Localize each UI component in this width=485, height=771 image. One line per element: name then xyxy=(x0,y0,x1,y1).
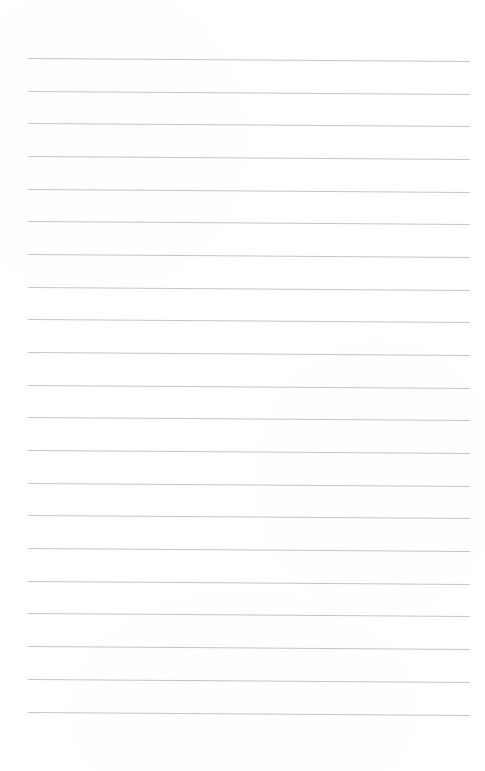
writing-area[interactable] xyxy=(28,58,470,713)
lined-paper-page xyxy=(0,0,485,771)
